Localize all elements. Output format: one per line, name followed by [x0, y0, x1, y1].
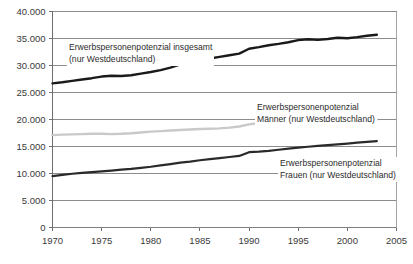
annotation-line: (nur Westdeutschland): [69, 54, 212, 66]
annotation-line: Frauen (nur Westdeutschland): [280, 170, 396, 182]
line-chart-plot: 05.00010.00015.00020.00025.00030.00035.0…: [0, 0, 413, 264]
annot-maenner: ErwerbspersonenpotenzialMänner (nur West…: [255, 101, 377, 126]
annot-frauen: ErwerbspersonenpotenzialFrauen (nur West…: [278, 157, 398, 182]
x-axis-tick-label: 1970: [42, 235, 63, 246]
annotation-line: Männer (nur Westdeutschland): [257, 114, 375, 126]
y-axis-tick-label: 20.000: [16, 114, 45, 125]
x-axis-tick-label: 2005: [386, 235, 407, 246]
y-axis-tick-label: 0: [40, 222, 45, 233]
y-axis-tick-label: 15.000: [16, 141, 45, 152]
y-axis-tick-label: 30.000: [16, 60, 45, 71]
annotation-line: Erwerbspersonenpotenzial: [257, 102, 375, 114]
y-axis-tick-label: 10.000: [16, 168, 45, 179]
annot-total: Erwerbspersonenpotenzial insgesamt(nur W…: [67, 41, 214, 66]
chart-container: 05.00010.00015.00020.00025.00030.00035.0…: [0, 0, 413, 264]
annotation-line: Erwerbspersonenpotenzial insgesamt: [69, 42, 212, 54]
x-axis-tick-label: 1975: [91, 235, 112, 246]
y-axis-tick-label: 35.000: [16, 33, 45, 44]
y-axis-tick-label: 40.000: [16, 6, 45, 17]
x-axis-tick-label: 1980: [140, 235, 161, 246]
x-axis-tick-label: 1995: [288, 235, 309, 246]
y-axis-tick-label: 25.000: [16, 87, 45, 98]
x-axis-tick-label: 1990: [239, 235, 260, 246]
x-axis-tick-label: 2000: [337, 235, 358, 246]
y-axis-tick-label: 5.000: [22, 195, 46, 206]
annotation-line: Erwerbspersonenpotenzial: [280, 158, 396, 170]
x-axis-tick-label: 1985: [189, 235, 210, 246]
